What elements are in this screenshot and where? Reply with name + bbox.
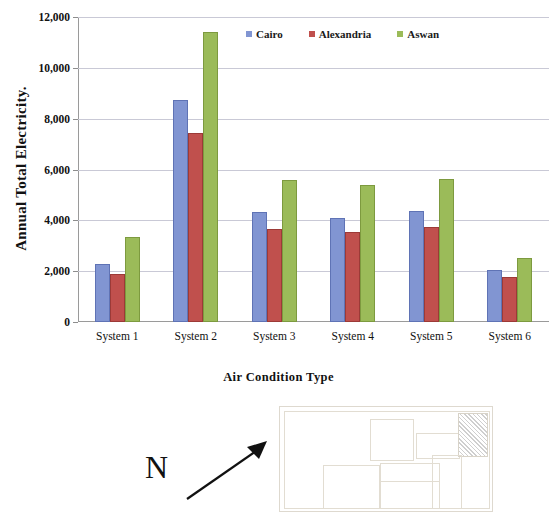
y-axis-tick-label: 8,000 [44,113,70,125]
x-axis-tick-label: System 3 [235,330,314,342]
bar-cairo [409,211,424,322]
legend-swatch-icon [397,31,403,37]
legend-label: Cairo [256,28,283,40]
bar-group [314,17,393,322]
bar-group [392,17,471,322]
bar-group [78,17,157,322]
legend-item-cairo: Cairo [246,28,283,40]
bar-cairo [487,270,502,322]
floor-plan-room [432,455,462,509]
legend-item-alex: Alexandria [309,28,372,40]
bar-group [157,17,236,322]
bar-alex [267,229,282,322]
bar-groups [78,17,549,322]
figure-panel: Annual Total Electricity. 02,0004,0006,0… [0,0,557,517]
y-axis-tick-label: 4,000 [44,214,70,226]
y-axis-tick-label: 12,000 [38,11,70,23]
bar-cairo [173,100,188,322]
x-axis-tick-label: System 4 [314,330,393,342]
bar-aswan [125,237,140,322]
bar-aswan [282,180,297,322]
x-axis-title: Air Condition Type [0,370,557,385]
legend-swatch-icon [309,31,315,37]
y-axis-tick-label: 0 [64,316,70,328]
bar-alex [345,232,360,322]
bar-aswan [517,258,532,322]
bar-chart: Annual Total Electricity. 02,0004,0006,0… [0,0,557,395]
y-axis-title: Annual Total Electricity. [13,44,30,294]
x-axis-tick-label: System 6 [471,330,550,342]
floor-plan-room [380,481,440,509]
bar-aswan [203,32,218,322]
north-indicator: N [145,435,275,510]
bar-cairo [95,264,110,322]
y-axis-tick [73,322,78,323]
floor-plan-diagram [279,406,493,512]
floor-plan-room [370,419,414,461]
bar-alex [424,227,439,322]
y-axis-tick-label: 2,000 [44,265,70,277]
legend-swatch-icon [246,31,252,37]
north-arrow-icon [183,435,275,505]
bar-cairo [252,212,267,322]
north-label: N [145,449,168,486]
y-axis-tick-label: 10,000 [38,62,70,74]
floor-plan-room [323,465,380,509]
legend-label: Alexandria [319,28,372,40]
bar-alex [188,133,203,322]
plot-area: 02,0004,0006,0008,00010,00012,000 [78,17,549,322]
bar-group [235,17,314,322]
x-axis-tick-label: System 2 [157,330,236,342]
legend-label: Aswan [407,28,439,40]
legend-item-aswan: Aswan [397,28,439,40]
bar-aswan [439,179,454,322]
bar-cairo [330,218,345,322]
x-axis-tick-labels: System 1System 2System 3System 4System 5… [78,330,549,342]
chart-legend: CairoAlexandriaAswan [246,28,439,40]
floor-plan-hatched-zone [458,413,488,457]
bar-aswan [360,185,375,322]
x-axis-tick-label: System 1 [78,330,157,342]
x-axis-tick-label: System 5 [392,330,471,342]
bar-group [471,17,550,322]
y-axis-tick-label: 6,000 [44,164,70,176]
bar-alex [110,274,125,322]
bar-alex [502,277,517,322]
